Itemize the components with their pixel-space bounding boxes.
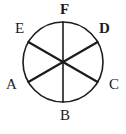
vertex-label-e: E	[15, 21, 24, 36]
circle-sector-figure: F D C B A E	[0, 0, 126, 134]
vertex-label-f: F	[60, 2, 69, 17]
vertex-label-c: C	[109, 77, 119, 92]
vertex-label-d: D	[99, 21, 110, 36]
vertex-label-b: B	[60, 108, 70, 123]
vertex-label-a: A	[6, 77, 17, 92]
